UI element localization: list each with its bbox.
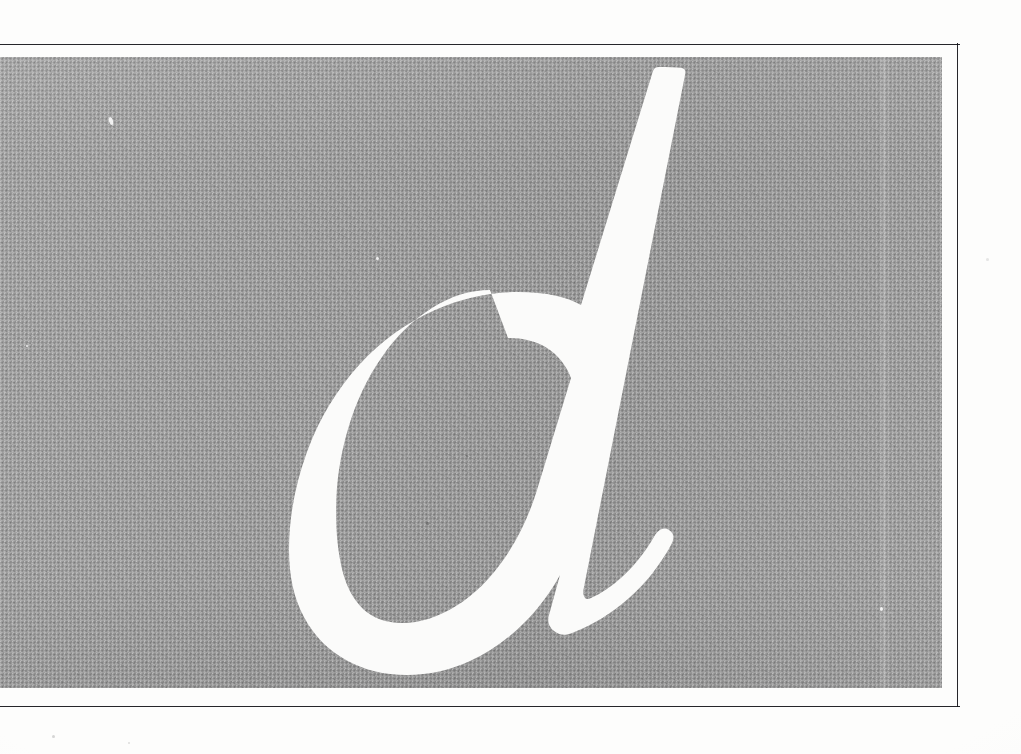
halftone-panel <box>0 57 942 688</box>
frame-rule-bottom <box>0 706 960 707</box>
letter-d-outline <box>289 67 685 675</box>
scan-speck <box>986 258 989 261</box>
letter-d-glyph <box>0 57 942 688</box>
frame-rule-right <box>957 43 958 707</box>
frame-rule-top <box>0 44 960 45</box>
plate-caption <box>0 712 1021 754</box>
specimen-page <box>0 0 1021 754</box>
